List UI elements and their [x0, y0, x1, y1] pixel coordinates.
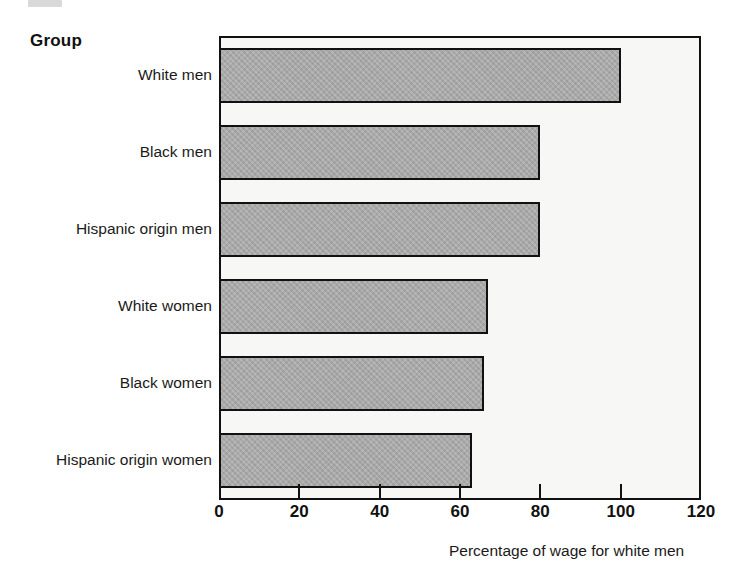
bar-chart-figure: Group White menBlack menHispanic origin …	[0, 0, 745, 569]
bar-hispanic-origin-women	[219, 433, 472, 488]
x-tick-label: 80	[531, 502, 550, 522]
category-label: Hispanic origin women	[0, 451, 212, 469]
x-axis-title: Percentage of wage for white men	[449, 542, 684, 560]
bar-row	[219, 279, 701, 334]
category-label: White women	[0, 297, 212, 315]
x-tick-label: 40	[370, 502, 389, 522]
category-label: Black men	[0, 143, 212, 161]
bar-row	[219, 202, 701, 257]
bar-row	[219, 125, 701, 180]
bar-row	[219, 356, 701, 411]
bar-white-men	[219, 48, 621, 103]
x-tick-label: 20	[290, 502, 309, 522]
category-label: Hispanic origin men	[0, 220, 212, 238]
x-tick	[459, 484, 461, 498]
bar-black-men	[219, 125, 540, 180]
scan-artifact-mark	[28, 0, 62, 7]
x-tick-label: 100	[606, 502, 634, 522]
x-tick-label: 60	[451, 502, 470, 522]
x-tick	[298, 484, 300, 498]
x-axis-ticks: 020406080100120	[219, 484, 701, 544]
bar-row	[219, 48, 701, 103]
x-tick-label: 120	[687, 502, 715, 522]
bar-black-women	[219, 356, 484, 411]
category-label: White men	[0, 66, 212, 84]
category-label: Black women	[0, 374, 212, 392]
category-label-list: White menBlack menHispanic origin menWhi…	[0, 36, 212, 498]
bar-white-women	[219, 279, 488, 334]
x-tick	[379, 484, 381, 498]
x-tick	[620, 484, 622, 498]
x-tick-label: 0	[214, 502, 223, 522]
bar-row	[219, 433, 701, 488]
x-tick	[539, 484, 541, 498]
bars-layer	[219, 36, 701, 498]
bar-hispanic-origin-men	[219, 202, 540, 257]
